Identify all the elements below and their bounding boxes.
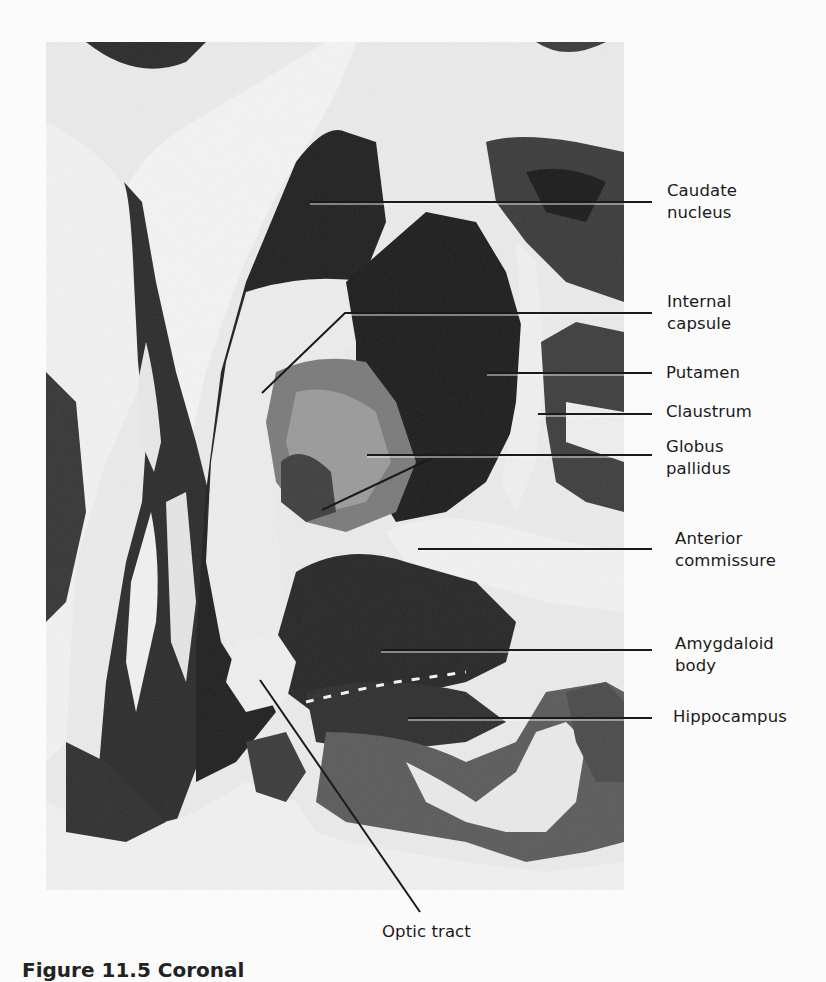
label-anterior-commissure: Anterior commissure [675, 528, 776, 572]
label-hippocampus: Hippocampus [673, 706, 787, 728]
label-claustrum: Claustrum [666, 401, 752, 423]
label-caudate-nucleus: Caudate nucleus [667, 180, 737, 224]
label-internal-capsule: Internal capsule [667, 291, 731, 335]
label-globus-pallidus: Globus pallidus [666, 436, 731, 480]
brain-section-illustration [46, 42, 624, 890]
label-amygdaloid-body: Amygdaloid body [675, 633, 774, 677]
label-putamen: Putamen [666, 362, 740, 384]
brain-section-photo [46, 42, 624, 890]
label-optic-tract: Optic tract [382, 921, 471, 943]
figure-caption: Figure 11.5 Coronal [22, 958, 244, 982]
